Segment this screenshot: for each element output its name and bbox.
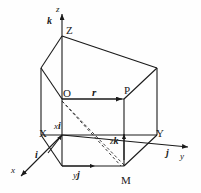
dashed-o-to-m-b xyxy=(62,101,121,166)
axis-label-y: y xyxy=(180,152,184,161)
vector-label-r: r xyxy=(92,87,96,98)
vertex-label-o: O xyxy=(63,88,71,99)
edge-bottom-right xyxy=(124,135,157,166)
component-zk-unit: k xyxy=(114,135,119,146)
edge-top-left-front xyxy=(41,68,62,99)
component-xi-unit: i xyxy=(58,120,61,131)
unit-vector-label-i: i xyxy=(35,150,38,160)
unit-vector-label-j: j xyxy=(166,148,169,158)
edge-top-left-back xyxy=(41,36,62,68)
unit-vector-label-k: k xyxy=(47,16,52,26)
vector-xi-arrow xyxy=(48,135,62,153)
axis-label-z: z xyxy=(56,5,60,14)
component-yj-unit: j xyxy=(77,169,80,180)
component-label-yj: yj xyxy=(73,170,80,180)
component-label-xi: xi xyxy=(54,121,61,131)
vertex-label-m: M xyxy=(121,175,131,186)
axis-x-line xyxy=(21,135,62,176)
vector-diagram-figure: z k Z X i x Y j y O r P M xi yj zk xyxy=(0,0,201,193)
diagram-canvas xyxy=(0,0,201,193)
edge-top-back xyxy=(62,36,157,68)
box-edges xyxy=(41,36,157,166)
axis-x xyxy=(21,135,62,176)
axis-y xyxy=(62,135,188,147)
vertex-label-p: P xyxy=(124,85,130,96)
vertex-label-z: Z xyxy=(66,25,73,36)
axis-label-x: x xyxy=(11,166,15,175)
vector-xi xyxy=(48,135,62,153)
vertex-label-x: X xyxy=(39,128,47,139)
vertex-label-y: Y xyxy=(156,128,164,139)
dashed-construction-lines xyxy=(62,101,124,166)
component-label-zk: zk xyxy=(110,136,119,146)
axis-y-line xyxy=(62,135,188,147)
